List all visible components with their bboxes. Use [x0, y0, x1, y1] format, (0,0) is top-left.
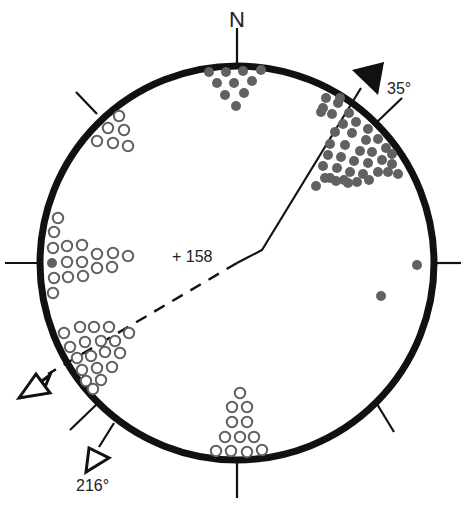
tick-se — [377, 404, 394, 432]
south-open-cluster — [211, 388, 267, 457]
west-open-cluster — [48, 213, 133, 298]
east-filled-points — [376, 260, 422, 301]
trend-35-arrow — [237, 62, 384, 263]
north-filled-cluster — [204, 65, 266, 111]
trend-35-label: 35° — [387, 80, 411, 97]
trend-216-arrow — [86, 423, 114, 472]
open-arrowhead-icon — [86, 448, 109, 472]
tick-ne — [377, 98, 402, 122]
tick-sw — [70, 404, 97, 430]
stereonet-diagram: N + 158 35° 216° — [0, 0, 468, 515]
tick-nw — [76, 92, 97, 114]
southwest-open-cluster — [59, 322, 134, 394]
northwest-open-cluster — [92, 111, 133, 151]
west-filled-dot — [47, 258, 57, 268]
trend-216-label: 216° — [76, 477, 109, 494]
center-label: + 158 — [172, 248, 213, 265]
north-label: N — [229, 7, 245, 32]
